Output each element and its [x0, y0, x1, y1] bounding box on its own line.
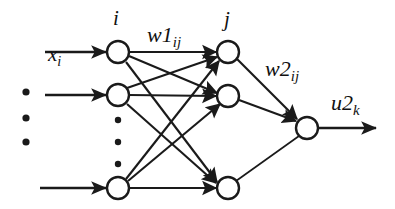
- input-vector-label-subscript: i: [57, 53, 61, 69]
- weight-layer1-subscript: ij: [173, 34, 182, 50]
- output-layer-nodes: [296, 117, 318, 139]
- output-label: u2k: [331, 92, 360, 118]
- input-arrows-group: [40, 52, 106, 188]
- input-ellipsis-dot: [22, 138, 29, 145]
- hidden-node-m: [217, 177, 239, 199]
- hidden-layer-index-base: j: [224, 7, 230, 31]
- input-vector-label: xi: [48, 44, 62, 68]
- weight-layer2-base: w2: [265, 56, 291, 81]
- weight-layer2-label: w2ij: [265, 58, 299, 84]
- input-layer-ellipsis-dot: [115, 161, 121, 167]
- connection-w1-i2-j2: [129, 95, 216, 96]
- layer1-connections-group: [126, 52, 220, 188]
- input-node-1: [107, 41, 129, 63]
- input-layer-ellipsis-dot: [115, 117, 121, 123]
- weight-layer1-label: w1ij: [147, 24, 181, 50]
- input-ellipsis-dot: [22, 88, 29, 95]
- input-layer-index-base: i: [113, 6, 119, 30]
- neural-network-diagram: xi i w1ij j w2ij u2k: [0, 0, 395, 209]
- weight-layer2-subscript: ij: [291, 68, 300, 84]
- output-label-base: u2: [331, 90, 353, 115]
- input-layer-ellipsis-dots: [115, 117, 121, 167]
- input-node-2: [107, 84, 129, 106]
- connection-w2-jm-k1: [236, 136, 299, 181]
- input-node-n: [107, 177, 129, 199]
- input-layer-index-label: i: [113, 8, 119, 29]
- input-ellipsis-dot: [22, 114, 29, 121]
- input-vector-label-base: x: [48, 42, 57, 66]
- output-label-subscript: k: [353, 102, 360, 118]
- weight-layer1-base: w1: [147, 22, 173, 47]
- hidden-layer-index-label: j: [224, 9, 230, 30]
- hidden-node-1: [217, 41, 239, 63]
- input-ellipsis-dots: [22, 88, 29, 145]
- hidden-node-2: [217, 85, 239, 107]
- output-node-1: [296, 117, 318, 139]
- input-layer-ellipsis-dot: [115, 139, 121, 145]
- hidden-layer-nodes: [217, 41, 239, 199]
